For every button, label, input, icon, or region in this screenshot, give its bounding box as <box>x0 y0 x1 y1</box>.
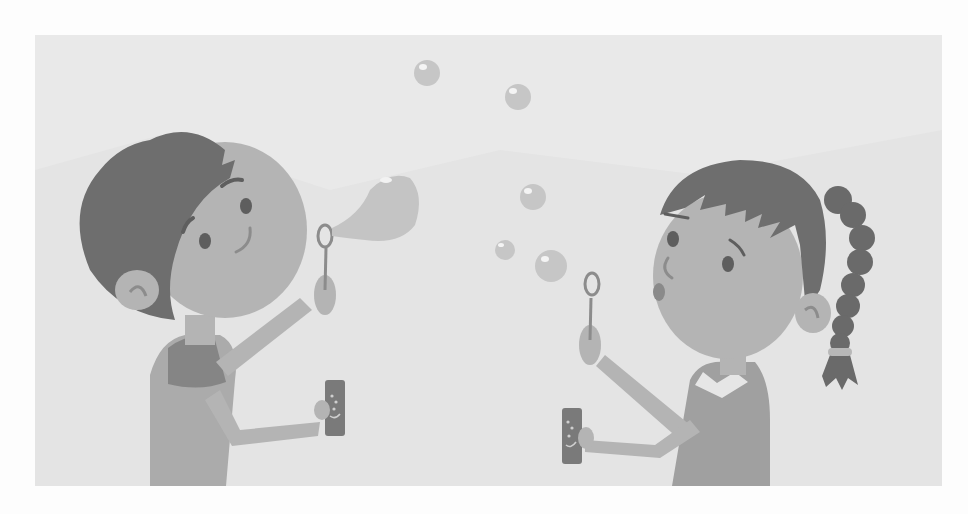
illustration-panel <box>35 35 942 486</box>
boy-eye <box>240 198 252 214</box>
girl-mouth <box>653 283 665 301</box>
girl-eye <box>667 231 679 247</box>
boy-eye <box>199 233 211 249</box>
bubbles-illustration <box>35 35 942 486</box>
girl-eye <box>722 256 734 272</box>
